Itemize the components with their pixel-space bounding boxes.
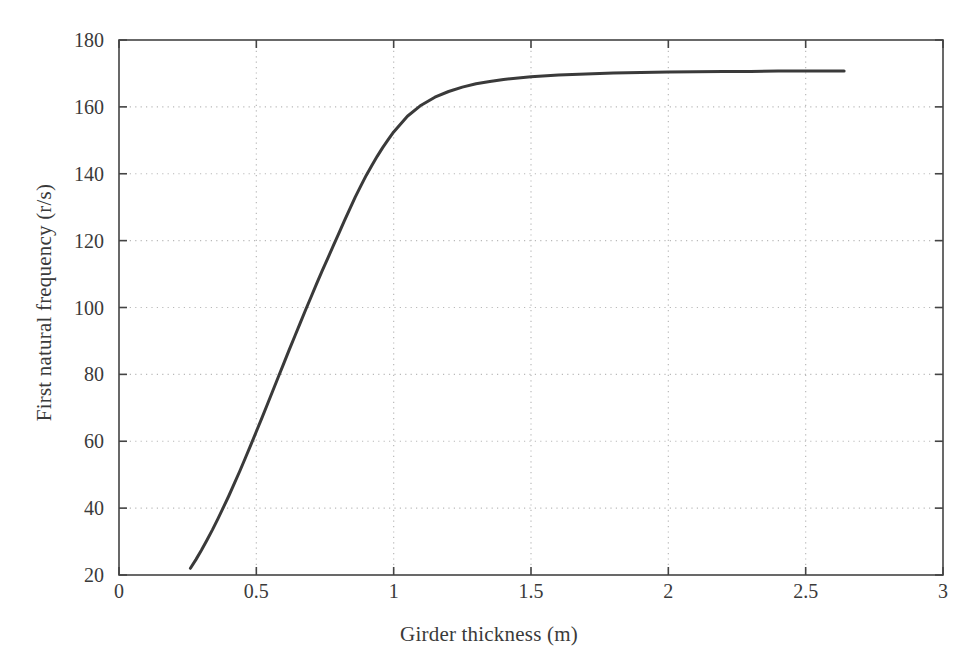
x-tick-label: 3 — [938, 580, 948, 603]
figure-container: Girder thickness (m) First natural frequ… — [0, 0, 978, 672]
y-tick-label: 80 — [40, 363, 104, 386]
y-tick-label: 180 — [40, 29, 104, 52]
x-tick-label: 2.5 — [793, 580, 818, 603]
x-axis-title: Girder thickness (m) — [0, 622, 978, 647]
plot-area — [0, 0, 978, 672]
y-tick-label: 120 — [40, 229, 104, 252]
x-tick-label: 0.5 — [244, 580, 269, 603]
x-tick-label: 1.5 — [519, 580, 544, 603]
x-tick-label: 2 — [663, 580, 673, 603]
data-line-first-natural-frequency — [190, 71, 844, 568]
y-tick-label: 40 — [40, 497, 104, 520]
y-tick-label: 140 — [40, 162, 104, 185]
x-tick-label: 1 — [389, 580, 399, 603]
gridlines-group — [119, 40, 943, 575]
y-tick-label: 100 — [40, 296, 104, 319]
y-tick-label: 20 — [40, 564, 104, 587]
x-tick-label: 0 — [114, 580, 124, 603]
y-tick-label: 60 — [40, 430, 104, 453]
y-tick-label: 160 — [40, 95, 104, 118]
